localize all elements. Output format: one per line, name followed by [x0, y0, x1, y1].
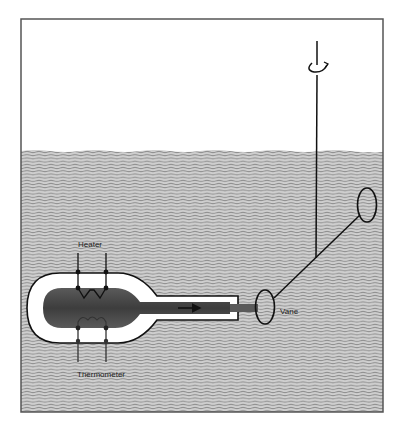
- vane-label: Vane: [280, 307, 299, 316]
- shaft: [316, 75, 317, 258]
- jet-stream: [230, 304, 258, 312]
- thermometer-label: Thermometer: [77, 370, 125, 379]
- heater-label: Heater: [78, 240, 102, 249]
- air-region: [21, 19, 383, 150]
- tank: [21, 19, 383, 412]
- apparatus-diagram: Heater Thermometer Vane: [0, 0, 406, 433]
